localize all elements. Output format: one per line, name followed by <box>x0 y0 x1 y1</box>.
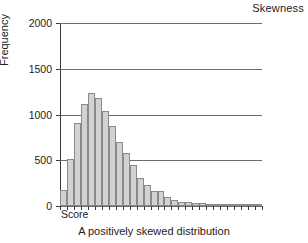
x-tick <box>206 206 207 210</box>
x-tick <box>178 206 179 210</box>
histogram-bar <box>102 111 109 206</box>
histogram-bar <box>123 153 130 206</box>
histogram-bar <box>67 159 74 206</box>
histogram-bar <box>130 165 137 206</box>
histogram-bar <box>137 178 144 206</box>
x-tick <box>130 206 131 210</box>
histogram-bar <box>81 104 88 206</box>
figure-caption: A positively skewed distribution <box>0 225 308 237</box>
skewness-figure: Skewness 0500100015002000 Frequency Scor… <box>0 0 308 243</box>
x-tick <box>248 206 249 210</box>
histogram-bar <box>220 204 227 206</box>
histogram-bars <box>60 23 262 206</box>
y-tick-label-2000: 2000 <box>29 17 52 29</box>
figure-corner-title: Skewness <box>252 2 304 14</box>
histogram-bar <box>213 204 220 206</box>
x-tick <box>199 206 200 210</box>
x-tick <box>262 206 263 210</box>
histogram-bar <box>88 93 95 206</box>
x-tick <box>241 206 242 210</box>
x-tick <box>192 206 193 210</box>
histogram-bar <box>95 98 102 206</box>
histogram-bar <box>234 204 241 206</box>
histogram-bar <box>164 197 171 206</box>
histogram-bar <box>185 202 192 206</box>
histogram-bar <box>60 190 67 206</box>
y-tick-label-1500: 1500 <box>29 63 52 75</box>
x-tick <box>95 206 96 210</box>
y-tick-label-500: 500 <box>34 154 52 166</box>
y-tick-label-0: 0 <box>46 200 52 212</box>
x-tick <box>227 206 228 210</box>
x-tick <box>234 206 235 210</box>
histogram-bar <box>192 203 199 206</box>
histogram-bar <box>116 142 123 206</box>
histogram-bar <box>74 123 81 206</box>
x-tick <box>185 206 186 210</box>
x-tick <box>102 206 103 210</box>
histogram-bar <box>206 204 213 206</box>
histogram-bar <box>151 191 158 206</box>
x-tick <box>116 206 117 210</box>
x-origin-label: Score <box>61 208 88 220</box>
gridline-0 <box>60 206 262 207</box>
y-tick-label-1000: 1000 <box>29 109 52 121</box>
x-tick <box>255 206 256 210</box>
x-tick <box>213 206 214 210</box>
x-tick <box>220 206 221 210</box>
histogram-bar <box>171 200 178 206</box>
histogram-bar <box>227 204 234 206</box>
x-tick <box>137 206 138 210</box>
histogram-bar <box>241 204 248 206</box>
x-tick <box>158 206 159 210</box>
x-tick <box>151 206 152 210</box>
histogram-bar <box>199 203 206 206</box>
x-tick <box>171 206 172 210</box>
histogram-bar <box>158 191 165 206</box>
histogram-bar <box>109 126 116 206</box>
histogram-bar <box>144 185 151 207</box>
x-tick <box>109 206 110 210</box>
plot-area <box>60 23 262 206</box>
histogram-bar <box>255 204 262 206</box>
y-axis-title: Frequency <box>0 14 10 66</box>
histogram-bar <box>248 204 255 206</box>
histogram-bar <box>178 202 185 206</box>
x-tick <box>144 206 145 210</box>
x-tick <box>123 206 124 210</box>
x-tick <box>164 206 165 210</box>
